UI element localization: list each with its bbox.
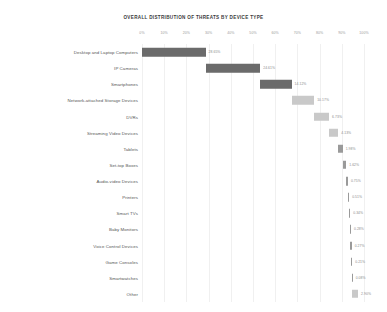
bar-value-label: 10.17% — [317, 98, 329, 102]
category-label: Voice Control Devices — [93, 243, 138, 248]
chart-row: Smartphones14.12% — [142, 76, 364, 92]
bar-segment — [206, 64, 261, 73]
bar-segment — [329, 128, 338, 137]
category-label: Network-attached Storage Devices — [68, 98, 138, 103]
chart-title: OVERALL DISTRIBUTION OF THREATS BY DEVIC… — [0, 15, 387, 20]
category-label: Tablets — [124, 146, 138, 151]
x-axis-tick-label: 40% — [227, 31, 234, 35]
x-axis-tick-label: 100% — [359, 31, 368, 35]
bar-segment — [260, 80, 291, 89]
bar-segment — [348, 193, 349, 202]
category-label: Streaming Video Devices — [87, 130, 138, 135]
bar-value-label: 0.75% — [351, 179, 361, 183]
chart-row: Set-top Boxes1.62% — [142, 157, 364, 173]
chart-row: Smartwatches0.08% — [142, 270, 364, 286]
x-axis-tick-label: 80% — [316, 31, 323, 35]
bar-segment — [314, 112, 329, 121]
chart-row: Baby Monitors0.28% — [142, 221, 364, 237]
x-axis-tick-labels: 0%10%20%30%40%50%60%70%80%90%100% — [142, 31, 364, 40]
x-axis-tick-label: 90% — [338, 31, 345, 35]
x-axis-tick-label: 50% — [249, 31, 256, 35]
bar-value-label: 14.12% — [295, 82, 307, 86]
chart-container: OVERALL DISTRIBUTION OF THREATS BY DEVIC… — [0, 0, 387, 312]
chart-row: Game Consoles0.21% — [142, 254, 364, 270]
bar-value-label: 6.73% — [332, 115, 342, 119]
x-axis-tick-label: 60% — [272, 31, 279, 35]
x-axis-tick-label: 70% — [294, 31, 301, 35]
chart-row: Other2.90% — [142, 286, 364, 302]
bar-segment — [352, 274, 353, 283]
chart-row: Network-attached Storage Devices10.17% — [142, 92, 364, 108]
bar-segment — [338, 145, 342, 154]
category-label: Other — [127, 291, 138, 296]
bar-value-label: 2.90% — [361, 292, 371, 296]
chart-row: IP Cameras24.61% — [142, 60, 364, 76]
bar-value-label: 0.28% — [354, 227, 364, 231]
chart-row: Tablets1.98% — [142, 141, 364, 157]
bar-value-label: 0.27% — [355, 244, 365, 248]
bar-value-label: 4.13% — [341, 131, 351, 135]
category-label: IP Cameras — [114, 66, 138, 71]
category-label: Printers — [122, 195, 138, 200]
chart-row: DVRs6.73% — [142, 109, 364, 125]
bar-value-label: 0.21% — [355, 260, 365, 264]
bar-segment — [350, 241, 351, 250]
plot-area: Desktop and Laptop Computers28.65%IP Cam… — [142, 44, 364, 302]
bar-value-label: 0.51% — [352, 195, 362, 199]
bar-value-label: 28.65% — [209, 50, 221, 54]
category-label: Smartwatches — [109, 275, 138, 280]
category-label: Set-top Boxes — [109, 162, 138, 167]
bar-segment — [352, 290, 358, 299]
bar-value-label: 0.08% — [356, 276, 366, 280]
category-label: Audio-video Devices — [96, 179, 138, 184]
bar-value-label: 0.34% — [353, 211, 363, 215]
bar-segment — [292, 96, 315, 105]
x-axis-tick-label: 0% — [139, 31, 144, 35]
category-label: Smartphones — [111, 82, 138, 87]
bar-value-label: 24.61% — [263, 66, 275, 70]
bar-value-label: 1.98% — [346, 147, 356, 151]
category-label: DVRs — [126, 114, 138, 119]
bar-segment — [142, 48, 206, 57]
x-axis-tick-label: 20% — [183, 31, 190, 35]
bar-segment — [350, 225, 351, 234]
category-label: Desktop and Laptop Computers — [74, 50, 138, 55]
category-label: Baby Monitors — [109, 227, 138, 232]
bar-segment — [349, 209, 350, 218]
chart-row: Smart TVs0.34% — [142, 205, 364, 221]
bar-segment — [343, 161, 347, 170]
category-label: Game Consoles — [105, 259, 138, 264]
x-axis-tick-label: 30% — [205, 31, 212, 35]
bar-value-label: 1.62% — [349, 163, 359, 167]
chart-row: Voice Control Devices0.27% — [142, 238, 364, 254]
chart-row: Printers0.51% — [142, 189, 364, 205]
chart-row: Streaming Video Devices4.13% — [142, 125, 364, 141]
chart-row: Desktop and Laptop Computers28.65% — [142, 44, 364, 60]
chart-row: Audio-video Devices0.75% — [142, 173, 364, 189]
category-label: Smart TVs — [117, 211, 138, 216]
bar-segment — [346, 177, 348, 186]
x-axis-tick-label: 10% — [161, 31, 168, 35]
bar-segment — [351, 257, 352, 266]
